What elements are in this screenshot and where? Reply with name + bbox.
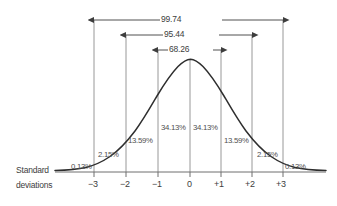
pct-label-right-two-sigma: 2.15%	[257, 151, 278, 159]
pct-label-right-outer: 0.13%	[285, 163, 306, 171]
tick-label-plus-1: +1	[214, 180, 224, 189]
pct-label-left-one-sigma: 13.59%	[128, 137, 153, 145]
pct-label-left-outer: 0.13%	[71, 163, 92, 171]
tick-label-plus-3: +3	[276, 180, 286, 189]
tick-label-minus-1: −1	[152, 180, 162, 189]
pct-label-right-one-sigma: 13.59%	[224, 137, 249, 145]
sigma-gridlines	[94, 20, 283, 172]
tick-label-minus-2: −2	[120, 180, 130, 189]
pct-label-left-half-sigma: 34.13%	[161, 124, 186, 132]
span-label-95: 95.44	[164, 30, 184, 39]
span-label-68: 68.26	[169, 45, 189, 54]
normal-distribution-figure: 99.74 95.44 68.26 0.13% 2.15% 13.59% 34.…	[0, 0, 337, 206]
tick-label-zero: 0	[187, 180, 192, 189]
normal-curve	[55, 59, 326, 170]
pct-label-right-half-sigma: 34.13%	[193, 124, 218, 132]
pct-label-left-two-sigma: 2.15%	[98, 151, 119, 159]
tick-label-plus-2: +2	[245, 180, 255, 189]
tick-label-minus-3: −3	[88, 180, 98, 189]
x-axis-ticks	[94, 172, 283, 177]
span-label-99: 99.74	[161, 15, 181, 24]
axis-title-line-2: deviations	[16, 181, 52, 190]
axis-title-line-1: Standard	[16, 166, 49, 175]
